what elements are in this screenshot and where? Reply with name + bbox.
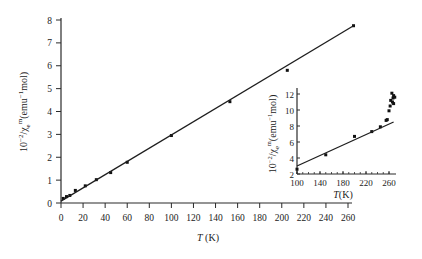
x-tick-label: 260 (341, 213, 356, 223)
x-tick-label: 120 (186, 213, 201, 223)
x-tick-label: 200 (275, 213, 290, 223)
x-tick-label: 80 (145, 213, 155, 223)
x-tick-label: 240 (319, 213, 334, 223)
y-tick-label: 2 (290, 170, 295, 180)
data-point (386, 118, 389, 121)
x-tick-label: 220 (359, 178, 373, 188)
data-point (296, 168, 299, 171)
data-point (389, 105, 392, 108)
x-tick-label: 40 (100, 213, 110, 223)
inset-plot: 10014018022026024681012 (285, 88, 396, 188)
y-tick-label: 4 (47, 107, 52, 117)
y-tick-label: 3 (47, 130, 52, 140)
y-tick-label: 1 (47, 176, 52, 186)
y-tick-label: 4 (290, 154, 295, 164)
data-point (393, 96, 396, 99)
inset-y-axis-label: 10−2/χem(emu−1mol) (265, 95, 280, 173)
y-tick-label: 2 (47, 153, 52, 163)
inset-x-axis-label: T(K) (333, 189, 352, 201)
x-tick-label: 140 (208, 213, 223, 223)
x-tick-label: 100 (164, 213, 179, 223)
data-point (286, 69, 289, 72)
x-tick-label: 0 (59, 213, 64, 223)
x-tick-label: 220 (297, 213, 312, 223)
y-tick-label: 8 (290, 122, 295, 132)
y-tick-label: 12 (285, 90, 294, 100)
x-tick-label: 140 (313, 178, 327, 188)
y-tick-label: 0 (47, 199, 52, 209)
x-tick-label: 100 (290, 178, 304, 188)
x-tick-label: 260 (382, 178, 396, 188)
x-tick-label: 180 (336, 178, 350, 188)
data-point (353, 135, 356, 138)
main-plot: 0204060801001201401601802002202402600123… (47, 16, 355, 224)
data-point (388, 109, 391, 112)
chart: 0204060801001201401601802002202402600123… (0, 0, 422, 259)
fit-line (297, 122, 394, 166)
x-tick-label: 160 (230, 213, 245, 223)
fit-line (61, 26, 354, 201)
y-tick-label: 8 (47, 16, 52, 26)
y-tick-label: 5 (47, 84, 52, 94)
x-tick-label: 180 (253, 213, 268, 223)
data-point (392, 102, 395, 105)
x-tick-label: 60 (122, 213, 132, 223)
y-tick-label: 10 (285, 106, 295, 116)
x-tick-label: 20 (78, 213, 88, 223)
y-tick-label: 6 (290, 138, 295, 148)
y-tick-label: 6 (47, 61, 52, 71)
y-tick-label: 7 (47, 38, 52, 48)
main-y-axis-label: 10−2/χem(emu−1mol) (16, 72, 32, 152)
main-x-axis-label: T (K) (197, 232, 219, 244)
